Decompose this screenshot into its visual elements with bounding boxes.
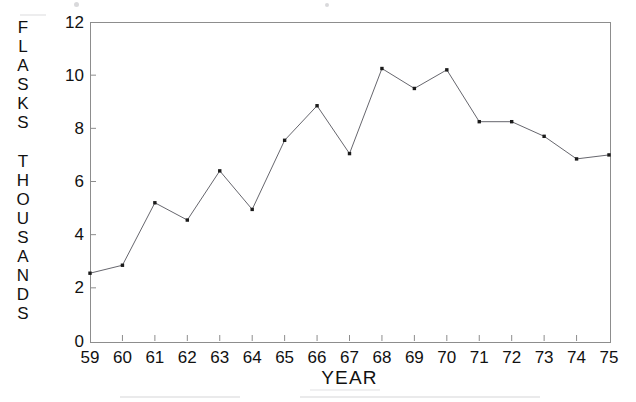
data-point-marker: [218, 169, 221, 172]
data-point-marker: [121, 264, 124, 267]
data-point-marker: [542, 135, 545, 138]
x-axis-title: YEAR: [90, 367, 609, 388]
line-chart-figure: F L A S K S T H O U S A N D S 024681012 …: [0, 0, 636, 402]
scan-artifact: [74, 2, 79, 7]
data-point-marker: [153, 201, 156, 204]
y-axis-tick-marks: [90, 75, 96, 288]
scan-artifact: [325, 3, 329, 7]
data-point-marker: [348, 152, 351, 155]
data-series-line: [90, 69, 609, 274]
data-point-marker: [413, 87, 416, 90]
x-axis-tick-marks: [122, 335, 576, 341]
scan-artifact: [300, 396, 540, 398]
data-point-marker: [445, 68, 448, 71]
x-tick-label: 75: [589, 349, 629, 366]
data-point-marker: [315, 104, 318, 107]
data-point-marker: [88, 272, 91, 275]
scan-artifact: [120, 396, 240, 398]
scan-artifact: [20, 14, 46, 16]
data-point-marker: [250, 208, 253, 211]
data-point-marker: [283, 139, 286, 142]
data-point-marker: [478, 120, 481, 123]
data-point-marker: [380, 67, 383, 70]
plot-data-svg: [90, 22, 609, 341]
scan-artifact: [310, 389, 380, 391]
data-point-markers: [88, 67, 610, 275]
data-point-marker: [186, 218, 189, 221]
data-point-marker: [575, 157, 578, 160]
data-point-marker: [510, 120, 513, 123]
data-point-marker: [607, 153, 610, 156]
